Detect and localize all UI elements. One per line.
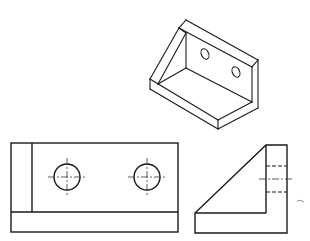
iso-base-top-front-edge <box>150 79 218 120</box>
iso-hole-2 <box>230 66 241 79</box>
isometric-view <box>150 20 258 129</box>
stray-mark <box>297 200 304 202</box>
iso-base-top-right-edge <box>218 102 252 120</box>
side-view <box>195 145 294 233</box>
iso-base-bottom-edge <box>150 89 218 129</box>
iso-hole-1 <box>199 48 210 61</box>
iso-top-cap-left <box>179 20 186 28</box>
side-outline <box>195 145 287 233</box>
iso-top-cap-right <box>252 60 258 67</box>
iso-top-back-edge <box>186 20 258 60</box>
front-outline <box>11 143 178 232</box>
iso-bottom-right-edge <box>218 108 258 129</box>
drawing-canvas <box>0 0 310 241</box>
iso-gusset-top-edge <box>179 28 186 33</box>
front-view <box>11 143 178 232</box>
iso-inner-base-line <box>186 68 252 102</box>
iso-top-front-edge <box>179 28 252 67</box>
